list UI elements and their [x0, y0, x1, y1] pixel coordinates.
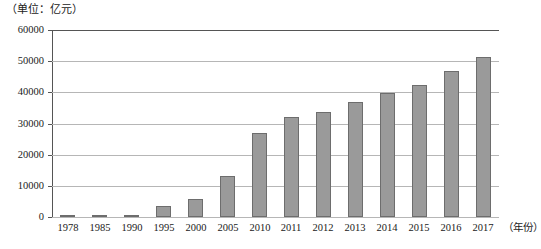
bar-2014 [380, 93, 395, 217]
bar-2015 [412, 85, 427, 217]
bar-2016 [444, 71, 459, 217]
bar-1985 [92, 215, 107, 217]
bar-1995 [156, 206, 171, 217]
x-axis-title: （年份） [503, 221, 541, 234]
y-axis-label-0: 0 [0, 212, 44, 222]
y-axis-label-20000: 20000 [0, 150, 44, 160]
bar-2000 [188, 199, 203, 217]
y-axis-label-50000: 50000 [0, 56, 44, 66]
bar-2005 [220, 176, 235, 217]
gridline-0 [52, 217, 499, 218]
x-axis-label-2017: 2017 [463, 221, 503, 234]
x-axis-tick-labels: 1978198519901995200020052010201120122013… [52, 221, 499, 241]
bar-2017 [476, 57, 491, 217]
plot-area [52, 30, 499, 217]
bar-2013 [348, 102, 363, 217]
y-tick-0 [48, 217, 52, 218]
bar-2010 [252, 133, 267, 217]
y-axis-label-60000: 60000 [0, 25, 44, 35]
bar-1990 [124, 215, 139, 217]
unit-caption: （单位：亿元） [6, 2, 83, 16]
y-axis-label-30000: 30000 [0, 119, 44, 129]
y-axis-label-40000: 40000 [0, 87, 44, 97]
y-axis-label-10000: 10000 [0, 181, 44, 191]
bars-layer [52, 30, 499, 217]
bar-2012 [316, 112, 331, 217]
bar-2011 [284, 117, 299, 217]
bar-1978 [60, 215, 75, 217]
